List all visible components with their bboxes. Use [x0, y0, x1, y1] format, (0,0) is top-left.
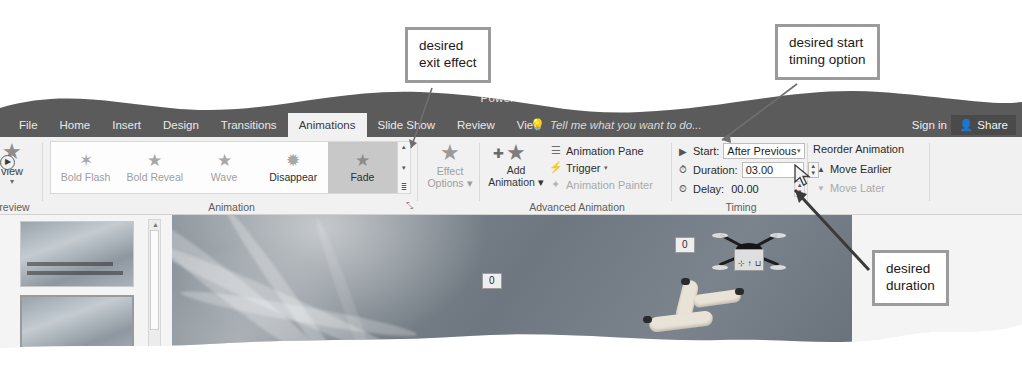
undo-icon[interactable]: ↶ [162, 88, 171, 100]
add-animation-label-text: Animation [488, 176, 535, 188]
scroll-up-arrow-icon[interactable]: ▲ [152, 221, 159, 228]
gallery-item-bold-reveal[interactable]: ★ Bold Reveal [120, 142, 189, 193]
arrow-up-icon: ▲ [817, 165, 825, 174]
hand-photo[interactable] [627, 270, 747, 356]
start-combobox[interactable]: After Previous ▾ [723, 143, 805, 159]
tab-transitions[interactable]: Transitions [210, 113, 288, 137]
window-buttons[interactable]: ❐ ✕ [967, 90, 1014, 104]
ribbon-tab-strip: File Home Insert Design Transitions Anim… [0, 113, 1022, 137]
disappear-star-icon: ✹ [286, 152, 300, 170]
bold-flash-star-icon: ✶ [79, 152, 93, 170]
animation-gallery[interactable]: ✶ Bold Flash ★ Bold Reveal ★ Wave ✹ [50, 141, 398, 194]
callout-desired-exit-effect: desired exit effect [405, 27, 491, 83]
tab-animations[interactable]: Animations [288, 113, 367, 137]
tab-review[interactable]: Review [446, 113, 506, 137]
bold-reveal-star-icon: ★ [147, 152, 162, 170]
group-separator-6 [929, 143, 930, 201]
sign-in-button[interactable]: Sign in [912, 113, 947, 137]
preview-dropdown-caret-icon[interactable]: ▾ [0, 177, 40, 186]
tell-me-search[interactable]: 💡 Tell me what you want to do... [530, 113, 702, 137]
ribbon-group-timing: ▶ Start: After Previous ▾ ⏱ Duration: 03… [673, 137, 809, 215]
start-dropdown-caret-icon[interactable]: ▾ [797, 147, 801, 155]
gallery-item-bold-flash[interactable]: ✶ Bold Flash [51, 142, 120, 193]
add-animation-button[interactable]: ★✚ Add Animation ▾ [485, 141, 547, 188]
drone-payload-icons: ⊹ ↑ ⊔ [736, 260, 762, 267]
autosave-caret-icon[interactable]: ▾ [120, 88, 126, 100]
gallery-scroll-buttons[interactable]: ▴ ▾ ≣ [398, 141, 411, 194]
tab-home[interactable]: Home [49, 113, 102, 137]
animation-dialog-launcher-icon[interactable]: ⤡ [406, 201, 413, 212]
gallery-scroll-down-icon[interactable]: ▾ [402, 164, 406, 172]
group-label-timing: Timing [673, 201, 809, 213]
group-label-animation: Animation [44, 201, 419, 213]
delay-label: Delay: [693, 183, 724, 195]
callout-desired-start-timing-option: desired start timing option [775, 24, 880, 80]
ribbon-group-reorder-animation: Reorder Animation ▲ Move Earlier ▼ Move … [809, 137, 929, 215]
drone-photo[interactable]: ⊹ ↑ ⊔ [712, 227, 786, 279]
animation-pane-label: Animation Pane [566, 145, 644, 157]
effect-options-button[interactable]: ★ Effect Options ▾ [423, 141, 477, 189]
group-label-preview: Preview [0, 201, 44, 213]
redo-icon[interactable]: ↷ [182, 88, 191, 100]
animation-badge-1[interactable]: 0 [482, 273, 502, 289]
gallery-item-fade[interactable]: ★ Fade [328, 142, 397, 193]
nail-3 [643, 316, 652, 323]
tab-slide-show[interactable]: Slide Show [367, 113, 447, 137]
gallery-item-wave[interactable]: ★ Wave [189, 142, 258, 193]
quick-access-toolbar[interactable]: ▾ 💾 ↶ ↷ ▾ [120, 88, 208, 100]
animation-pane-icon: ☰ [549, 144, 562, 157]
timing-row-delay: ⏲ Delay: 00.00 ▲ ▼ [677, 180, 805, 198]
slide-thumbnail-1[interactable] [20, 221, 134, 287]
slide-thumbnail-2[interactable] [20, 295, 134, 361]
start-value: After Previous [727, 145, 796, 157]
move-earlier-button[interactable]: ▲ Move Earlier [817, 163, 892, 175]
delay-input[interactable]: 00.00 [728, 181, 790, 197]
animation-painter-button[interactable]: ✦ Animation Painter [549, 176, 669, 193]
trigger-dropdown-caret-icon[interactable]: ▾ [604, 164, 608, 172]
tab-design[interactable]: Design [152, 113, 210, 137]
gallery-more-icon[interactable]: ≣ [401, 184, 407, 192]
drone-rotor-3 [712, 265, 728, 270]
drone-rotor-1 [712, 233, 728, 238]
slide-editing-area[interactable]: 0 0 [172, 215, 852, 356]
person-share-icon: 👤 [959, 118, 973, 132]
tell-me-placeholder: Tell me what you want to do... [550, 119, 702, 131]
effect-options-star-icon: ★ [423, 141, 477, 165]
slide-thumbnail-pane[interactable] [8, 215, 138, 356]
plus-icon: ✚ [493, 142, 504, 165]
save-icon[interactable]: 💾 [137, 88, 151, 100]
customize-qat-icon[interactable]: ▾ [202, 88, 208, 100]
share-button[interactable]: 👤 Share [951, 115, 1016, 135]
scrollbar-thumb[interactable] [150, 230, 159, 330]
group-separator-2 [417, 143, 418, 201]
nail-2 [735, 288, 744, 295]
move-earlier-label: Move Earlier [830, 163, 892, 175]
trigger-button[interactable]: ⚡ Trigger ▾ [549, 159, 669, 176]
workspace: ▲ 0 0 [0, 215, 1022, 356]
delay-spinner-down-icon[interactable]: ▼ [797, 189, 803, 196]
tab-file[interactable]: File [8, 113, 49, 137]
ribbon-group-animation: ✶ Bold Flash ★ Bold Reveal ★ Wave ✹ [44, 137, 419, 215]
ribbon-group-effect-options: ★ Effect Options ▾ [419, 137, 481, 215]
thumbnail-scrollbar[interactable]: ▲ [148, 219, 161, 354]
effect-options-dropdown-caret-icon[interactable]: ▾ [467, 177, 473, 189]
preview-button[interactable]: ★ ▶ view ▾ [0, 141, 40, 186]
reorder-animation-title: Reorder Animation [813, 143, 904, 155]
gallery-item-disappear[interactable]: ✹ Disappear [259, 142, 328, 193]
effect-options-label-line1: Effect [423, 165, 477, 177]
add-animation-dropdown-caret-icon[interactable]: ▾ [538, 176, 544, 188]
screenshot-stage: ▾ 💾 ↶ ↷ ▾ PowerPoint ❐ ✕ File Home Inser… [0, 0, 1022, 385]
animation-pane-button[interactable]: ☰ Animation Pane [549, 142, 669, 159]
move-later-button[interactable]: ▼ Move Later [817, 182, 885, 194]
ribbon-group-advanced-animation: ★✚ Add Animation ▾ ☰ Animation Pane [481, 137, 673, 215]
tab-insert[interactable]: Insert [101, 113, 152, 137]
gallery-label-bold-flash: Bold Flash [61, 171, 111, 183]
restore-icon[interactable]: ❐ [967, 90, 978, 104]
add-animation-label-line2: Animation ▾ [485, 176, 547, 188]
close-icon[interactable]: ✕ [1004, 90, 1014, 104]
gallery-scroll-up-icon[interactable]: ▴ [402, 143, 406, 151]
ribbon: ★ ▶ view ▾ Preview ✶ Bold Flash [0, 137, 1022, 215]
gallery-label-bold-reveal: Bold Reveal [126, 171, 183, 183]
torn-screenshot-region: ▾ 💾 ↶ ↷ ▾ PowerPoint ❐ ✕ File Home Inser… [0, 86, 1022, 356]
animation-badge-2[interactable]: 0 [675, 237, 695, 253]
